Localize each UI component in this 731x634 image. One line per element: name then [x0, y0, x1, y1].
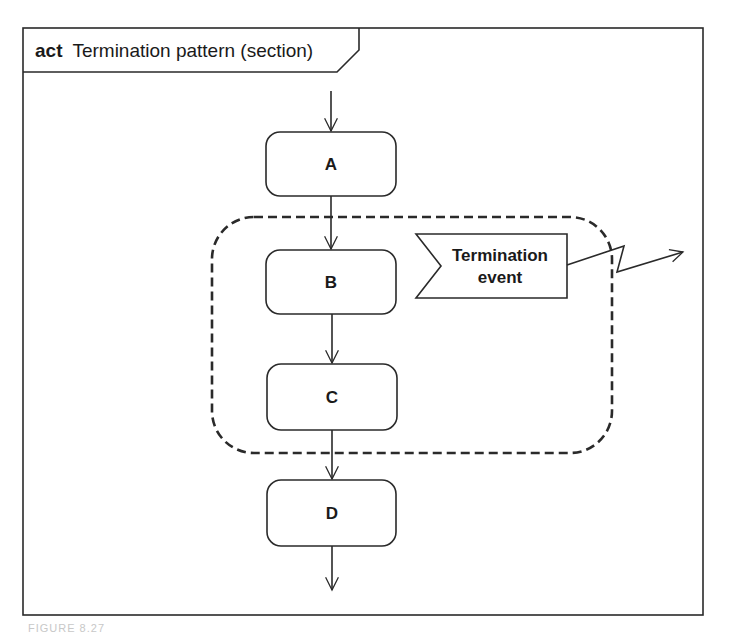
action-a[interactable]: A: [266, 132, 396, 196]
action-d[interactable]: D: [267, 480, 396, 546]
action-b[interactable]: B: [266, 250, 396, 314]
svg-text:act Termination pattern: act Termination pattern (section): [35, 40, 313, 61]
action-c[interactable]: C: [267, 364, 397, 430]
action-a-label: A: [325, 155, 337, 174]
activity-diagram: act Termination pattern (section) A B C …: [0, 0, 731, 634]
action-d-label: D: [326, 504, 338, 523]
action-b-label: B: [325, 273, 337, 292]
accept-event-label-line2: event: [478, 268, 523, 287]
figure-caption: FIGURE 8.27: [28, 622, 105, 634]
action-c-label: C: [326, 388, 338, 407]
frame-header-tab: act Termination pattern (section): [23, 28, 359, 72]
frame-title: Termination pattern (section): [72, 40, 313, 61]
interrupting-edge-lightning-icon: [567, 246, 683, 272]
frame-keyword: act: [35, 40, 63, 61]
accept-event-termination[interactable]: Termination event: [416, 234, 567, 298]
accept-event-label-line1: Termination: [452, 246, 548, 265]
